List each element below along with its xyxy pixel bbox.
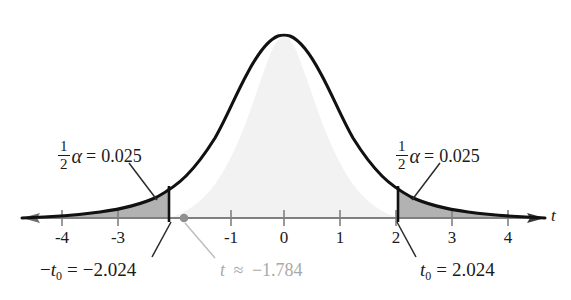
axis-variable-label: t	[551, 206, 556, 226]
right-alpha-value: 0.025	[439, 146, 480, 167]
tick-label-3: 3	[448, 228, 457, 248]
left-alpha-equals: =	[86, 146, 96, 167]
right-alpha-equals: =	[424, 146, 434, 167]
left-critical-leader	[152, 222, 171, 257]
sample-statistic-value: −1.784	[252, 260, 303, 280]
tick-label--4: -4	[55, 228, 69, 248]
tick-label-4: 4	[504, 228, 513, 248]
sample-statistic-label: t ≈ −1.784	[220, 260, 303, 281]
left-alpha-callout: 1 2 α = 0.025	[58, 140, 142, 173]
left-critical-number: −2.024	[83, 259, 136, 281]
sample-statistic-approx: ≈	[234, 260, 244, 280]
sample-statistic-leader	[185, 223, 215, 258]
right-alpha-numerator: 1	[396, 139, 408, 154]
acceptance-region-fill	[169, 36, 398, 218]
sample-statistic-marker	[180, 214, 189, 223]
tick-label-1: 1	[336, 228, 345, 248]
left-critical-minus: −	[40, 259, 51, 281]
right-alpha-denominator: 2	[396, 157, 408, 172]
left-alpha-denominator: 2	[58, 157, 70, 172]
right-critical-value-label: t 0 = 2.024	[420, 259, 495, 281]
tick-label-0: 0	[280, 228, 289, 248]
right-critical-number: 2.024	[452, 259, 495, 281]
left-alpha-symbol: α	[72, 145, 83, 168]
right-alpha-fraction: 1 2	[396, 139, 408, 172]
t-distribution-figure: -4 -3 -1 0 1 2 3 4 t 1 2 α = 0.025 1 2 α…	[0, 0, 571, 300]
tick-label--3: -3	[111, 228, 125, 248]
left-alpha-numerator: 1	[58, 139, 70, 154]
tick-label-2: 2	[392, 228, 401, 248]
left-critical-equals: =	[67, 259, 78, 281]
sample-statistic-variable: t	[220, 260, 225, 280]
left-alpha-fraction: 1 2	[58, 139, 70, 172]
left-critical-subscript: 0	[56, 269, 62, 284]
tick-label--1: -1	[224, 228, 238, 248]
right-critical-subscript: 0	[425, 269, 431, 284]
right-alpha-callout: 1 2 α = 0.025	[396, 140, 480, 173]
left-critical-value-label: − t 0 = −2.024	[40, 259, 136, 281]
left-alpha-value: 0.025	[101, 146, 142, 167]
right-critical-equals: =	[436, 259, 447, 281]
right-alpha-symbol: α	[410, 145, 421, 168]
